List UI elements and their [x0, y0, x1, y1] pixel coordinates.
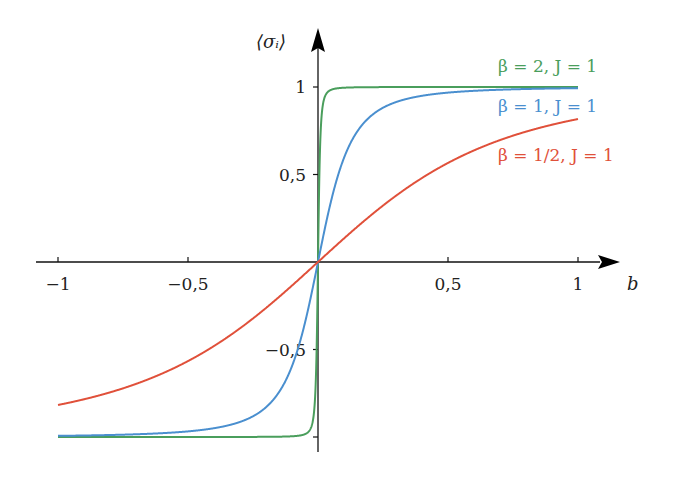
x-axis-label: b [627, 273, 639, 294]
x-tick-label: 1 [573, 274, 584, 294]
ticks: −1−0,50,5110,5−0,5 [45, 77, 583, 437]
x-tick-label: −0,5 [167, 274, 208, 294]
y-axis-label: ⟨σᵢ⟩ [256, 31, 286, 52]
x-axis-arrow-icon [598, 255, 620, 269]
legend-beta-1: β = 1, J = 1 [498, 96, 597, 116]
legend-beta-half: β = 1/2, J = 1 [498, 145, 614, 165]
legend-beta-2: β = 2, J = 1 [498, 56, 597, 76]
ising-magnetization-chart: −1−0,50,5110,5−0,5 ⟨σᵢ⟩ b β = 2, J = 1 β… [0, 0, 688, 478]
y-tick-label: 1 [295, 77, 306, 97]
x-tick-label: −1 [45, 274, 70, 294]
y-tick-label: 0,5 [279, 165, 306, 185]
x-tick-label: 0,5 [434, 274, 461, 294]
